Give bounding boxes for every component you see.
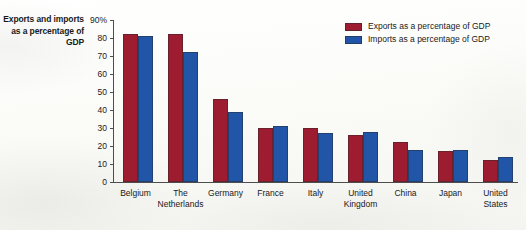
legend-color-swatch <box>345 23 362 31</box>
bar-imports <box>183 52 198 182</box>
y-tick-label: 60 <box>73 70 107 78</box>
y-tick-label: 10 <box>73 160 107 168</box>
y-tick-label: 30 <box>73 124 107 132</box>
bar-exports <box>123 34 138 182</box>
y-tick-label: 70 <box>73 52 107 60</box>
bar-imports <box>273 126 288 182</box>
x-axis-line <box>113 182 518 183</box>
y-tick-mark <box>110 110 114 111</box>
bar-exports <box>258 128 273 182</box>
y-tick-mark <box>110 164 114 165</box>
y-tick-mark <box>110 92 114 93</box>
bar-imports <box>498 157 513 182</box>
bar-group <box>168 20 198 182</box>
bar-group <box>213 20 243 182</box>
y-tick-mark <box>110 182 114 183</box>
bar-imports <box>408 150 423 182</box>
chart-legend: Exports as a percentage of GDPImports as… <box>345 20 490 46</box>
bar-exports <box>393 142 408 182</box>
y-tick-mark <box>110 128 114 129</box>
grouped-bar-chart: Exports and imports as a percentage of G… <box>0 0 526 230</box>
bar-exports <box>348 135 363 182</box>
y-tick-label: 20 <box>73 142 107 150</box>
bar-group <box>123 20 153 182</box>
legend-color-swatch <box>345 36 362 44</box>
bar-group <box>303 20 333 182</box>
bar-exports <box>303 128 318 182</box>
y-tick-label: 90% <box>73 16 107 24</box>
y-tick-label: 40 <box>73 106 107 114</box>
y-tick-mark <box>110 20 114 21</box>
bar-imports <box>453 150 468 182</box>
bar-imports <box>228 112 243 182</box>
legend-item: Exports as a percentage of GDP <box>345 20 490 33</box>
legend-label: Imports as a percentage of GDP <box>368 35 490 44</box>
x-axis-label: United States <box>469 188 522 209</box>
y-tick-mark <box>110 56 114 57</box>
legend-label: Exports as a percentage of GDP <box>368 22 490 31</box>
bar-group <box>258 20 288 182</box>
y-axis-title: Exports and imports as a percentage of G… <box>2 14 84 49</box>
y-tick-label: 50 <box>73 88 107 96</box>
bar-exports <box>168 34 183 182</box>
bar-imports <box>363 132 378 182</box>
bar-exports <box>213 99 228 182</box>
bar-exports <box>438 151 453 182</box>
y-tick-label: 0 <box>73 178 107 186</box>
bar-imports <box>138 36 153 182</box>
y-tick-mark <box>110 74 114 75</box>
legend-item: Imports as a percentage of GDP <box>345 33 490 46</box>
bar-imports <box>318 133 333 182</box>
y-axis-line <box>113 20 114 183</box>
bar-exports <box>483 160 498 182</box>
y-tick-label: 80 <box>73 34 107 42</box>
y-tick-mark <box>110 38 114 39</box>
y-tick-mark <box>110 146 114 147</box>
